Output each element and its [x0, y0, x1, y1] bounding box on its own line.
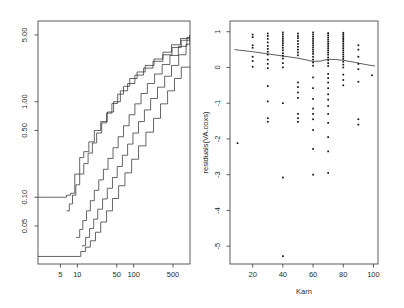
- left-plot-frame: [38, 21, 190, 264]
- scatter-point: [327, 93, 329, 95]
- scatter-point: [342, 41, 344, 43]
- scatter-point: [312, 118, 314, 120]
- scatter-point: [297, 35, 299, 37]
- scatter-point: [252, 60, 254, 62]
- scatter-point: [327, 87, 329, 89]
- scatter-point: [342, 32, 344, 34]
- scatter-point: [252, 56, 254, 58]
- scatter-point: [312, 77, 314, 79]
- scatter-point: [358, 118, 360, 120]
- scatter-point: [342, 43, 344, 45]
- scatter-point: [312, 129, 314, 131]
- scatter-point: [282, 44, 284, 46]
- scatter-point: [237, 142, 239, 144]
- scatter-point: [358, 81, 360, 83]
- scatter-point: [282, 55, 284, 57]
- scatter-point: [342, 52, 344, 54]
- scatter-point: [312, 148, 314, 150]
- scatter-point: [327, 105, 329, 107]
- left-y-ticklabel: 1.00: [20, 94, 29, 109]
- scatter-point: [297, 49, 299, 51]
- scatter-point: [342, 79, 344, 81]
- right-panel-canvas: 10-1-2-3-4-520406080100Karnresiduals(VA.…: [200, 0, 404, 308]
- right-x-ticklabel: 60: [309, 270, 317, 279]
- scatter-point: [282, 47, 284, 49]
- scatter-point: [297, 33, 299, 35]
- left-panel-canvas: 0.050.100.501.005.0051050100500: [0, 0, 204, 308]
- left-x-ticklabel: 50: [113, 270, 121, 279]
- scatter-point: [312, 174, 314, 176]
- scatter-point: [327, 73, 329, 75]
- scatter-point: [312, 42, 314, 44]
- scatter-point: [252, 34, 254, 36]
- scatter-point: [342, 36, 344, 38]
- scatter-point: [297, 113, 299, 115]
- scatter-point: [327, 99, 329, 101]
- scatter-point: [342, 74, 344, 76]
- scatter-point: [267, 35, 269, 37]
- scatter-point: [312, 44, 314, 46]
- scatter-point: [297, 37, 299, 39]
- scatter-point: [342, 37, 344, 39]
- scatter-point: [282, 58, 284, 60]
- scatter-point: [252, 66, 254, 68]
- left-y-ticklabel: 5.00: [20, 28, 29, 43]
- scatter-point: [327, 34, 329, 36]
- scatter-point: [327, 62, 329, 64]
- scatter-point: [282, 62, 284, 64]
- scatter-point: [282, 52, 284, 54]
- scatter-point: [297, 92, 299, 94]
- scatter-point: [297, 82, 299, 84]
- left-step-curve: [38, 35, 190, 197]
- scatter-point: [342, 39, 344, 41]
- left-y-ticklabel: 0.10: [20, 190, 29, 205]
- scatter-point: [267, 33, 269, 35]
- scatter-point: [282, 42, 284, 44]
- scatter-point: [327, 47, 329, 49]
- scatter-point: [327, 151, 329, 153]
- scatter-point: [267, 42, 269, 44]
- scatter-point: [312, 47, 314, 49]
- right-panel: 10-1-2-3-4-520406080100Karnresiduals(VA.…: [200, 0, 404, 308]
- scatter-point: [267, 117, 269, 119]
- scatter-point: [267, 67, 269, 69]
- scatter-point: [267, 101, 269, 103]
- scatter-point: [327, 37, 329, 39]
- scatter-point: [282, 40, 284, 42]
- left-x-ticklabel: 500: [167, 270, 180, 279]
- left-y-ticklabel: 0.50: [20, 123, 29, 138]
- scatter-point: [297, 97, 299, 99]
- scatter-point: [282, 49, 284, 51]
- left-x-ticklabel: 100: [127, 270, 140, 279]
- scatter-point: [312, 36, 314, 38]
- scatter-point: [297, 54, 299, 56]
- left-step-curve: [82, 36, 190, 246]
- left-x-ticklabel: 10: [73, 270, 81, 279]
- scatter-point: [358, 63, 360, 65]
- scatter-point: [342, 84, 344, 86]
- scatter-point: [312, 51, 314, 53]
- right-y-ticklabel: -2: [213, 136, 222, 143]
- scatter-point: [342, 47, 344, 49]
- scatter-point: [342, 61, 344, 63]
- right-y-ticklabel: 0: [213, 65, 222, 69]
- scatter-point: [297, 46, 299, 48]
- scatter-point: [312, 32, 314, 34]
- scatter-point: [267, 63, 269, 65]
- scatter-point: [342, 67, 344, 69]
- scatter-point: [312, 56, 314, 58]
- scatter-point: [282, 36, 284, 38]
- scatter-point: [312, 40, 314, 42]
- scatter-point: [312, 87, 314, 89]
- scatter-point: [252, 44, 254, 46]
- scatter-point: [342, 54, 344, 56]
- scatter-point: [327, 43, 329, 45]
- scatter-point: [371, 74, 373, 76]
- scatter-point: [358, 44, 360, 46]
- right-scatter-points: [237, 32, 373, 257]
- left-x-ticklabel: 5: [58, 270, 62, 279]
- right-y-ticklabel: -5: [213, 243, 222, 250]
- scatter-point: [312, 34, 314, 36]
- scatter-point: [327, 45, 329, 47]
- scatter-point: [267, 121, 269, 123]
